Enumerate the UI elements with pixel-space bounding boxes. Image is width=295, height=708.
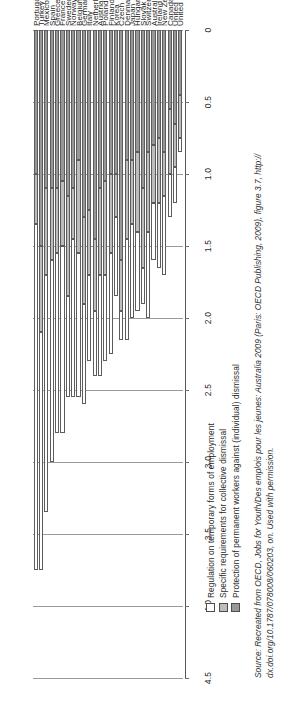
bar-segment [66, 196, 70, 297]
axis-tickmark [185, 462, 189, 463]
stacked-bar [50, 30, 54, 678]
legend-swatch-icon [231, 603, 240, 612]
bar-segment [146, 30, 150, 152]
legend-item: Specific requirements for collective dis… [218, 282, 229, 612]
source-line-2: dx.doi.org/10.1787/078008/060203, on. Us… [264, 18, 276, 678]
stacked-bar [125, 30, 129, 678]
bar-segment [178, 138, 182, 152]
bar-segment [130, 224, 134, 318]
axis-tickmark [185, 606, 189, 607]
chart-figure: PortugalTurkeyMexicoSpainGreeceFranceSwe… [0, 0, 295, 708]
axis-tickmark [185, 318, 189, 319]
axis-tick-label: 4.5 [203, 672, 213, 684]
stacked-bar [141, 30, 145, 678]
axis-tickmark [185, 174, 189, 175]
bar-segment [60, 181, 64, 246]
stacked-bar [173, 30, 177, 678]
legend-swatch-icon [206, 603, 215, 612]
bar-segment [157, 138, 161, 203]
stacked-bar [114, 30, 118, 678]
bar-segment [141, 188, 145, 267]
stacked-bar [98, 30, 102, 678]
bar-segment [114, 30, 118, 174]
bar-segment [109, 30, 113, 174]
bar-segment [76, 253, 80, 397]
rotated-figure-stage: PortugalTurkeyMexicoSpainGreeceFranceSwe… [0, 0, 295, 708]
bar-segment [178, 95, 182, 138]
bar-segment [60, 30, 64, 181]
bar-segment [82, 217, 86, 303]
bar-segment [34, 174, 38, 224]
bar-segment [130, 160, 134, 225]
bar-segment [93, 311, 97, 376]
bar-segment [151, 30, 155, 145]
stacked-bar [151, 30, 155, 678]
axis-tickmark [185, 102, 189, 103]
stacked-bar [34, 30, 38, 678]
legend-item: Regulation on temporary forms of employm… [205, 282, 216, 612]
legend-item: Protection of permanent workers against … [230, 282, 241, 612]
bar-segment [135, 30, 139, 152]
bar-segment [162, 30, 166, 152]
stacked-bar [168, 30, 172, 678]
stacked-bar [135, 30, 139, 678]
axis-tick-label: 0 [203, 28, 213, 33]
bar-segment [39, 246, 43, 332]
stacked-bar [109, 30, 113, 678]
bar-segment [66, 296, 70, 397]
legend-swatch-icon [219, 603, 228, 612]
stacked-bar [60, 30, 64, 678]
bar-segment [82, 304, 86, 405]
bar-segment [151, 203, 155, 261]
bar-segment [60, 246, 64, 433]
bar-segment [87, 30, 91, 210]
bar-segment [55, 30, 59, 188]
bar-segment [119, 311, 123, 340]
gridline [33, 678, 183, 679]
stacked-bar [103, 30, 107, 678]
category-label: United States [176, 0, 185, 26]
bar-segment [168, 30, 172, 109]
axis-tickmark [185, 678, 189, 679]
bar-segment [71, 239, 75, 397]
bar-segment [125, 30, 129, 160]
bar-segment [39, 332, 43, 570]
bar-segment [109, 253, 113, 354]
stacked-bar [93, 30, 97, 678]
bar-segment [71, 30, 75, 188]
bar-segment [146, 152, 150, 231]
bar-segment [135, 152, 139, 231]
bar-segment [44, 275, 48, 513]
source-label: Source: [253, 649, 263, 678]
bar-segment [44, 188, 48, 274]
bar-segment [55, 253, 59, 433]
bar-segment [135, 232, 139, 311]
stacked-bar [119, 30, 123, 678]
stacked-bar [162, 30, 166, 678]
bar-segment [39, 30, 43, 246]
bar-segment [98, 30, 102, 188]
bar-segment [173, 30, 177, 124]
stacked-bar [157, 30, 161, 678]
bar-segment [98, 275, 102, 376]
bar-segment [151, 145, 155, 203]
bar-segment [103, 30, 107, 181]
bar-segment [44, 30, 48, 188]
bar-segment [109, 174, 113, 253]
stacked-bar [76, 30, 80, 678]
bar-segment [55, 188, 59, 253]
bar-segment [71, 188, 75, 238]
bar-segment [141, 30, 145, 188]
axis-tickmark [185, 534, 189, 535]
bar-segment [50, 260, 54, 462]
bar-segment [125, 160, 129, 239]
bar-segment [162, 196, 166, 275]
axis-tick-label: 0.5 [203, 96, 213, 108]
stacked-bar [71, 30, 75, 678]
bar-segment [66, 30, 70, 196]
bar-segment [168, 109, 172, 174]
stacked-bar [130, 30, 134, 678]
bar-segment [173, 124, 177, 167]
bar-segment [87, 210, 91, 275]
stacked-bar [55, 30, 59, 678]
